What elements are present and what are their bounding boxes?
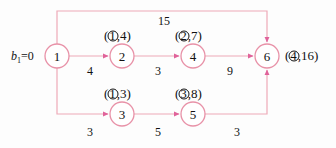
node-pair-label-2: (1,4) [104, 29, 131, 42]
node-pair-label-3: (1,3) [104, 87, 131, 100]
paren-close: ) [127, 28, 131, 43]
node-pair-label-6: (4,16) [285, 49, 318, 62]
node-label-5: 5 [181, 108, 205, 121]
circled-number-2: 2 [179, 29, 188, 42]
edge-weight-2-4: 3 [148, 65, 168, 77]
node-pair-label-4: (2,7) [175, 29, 202, 42]
pair-value: 16 [301, 48, 314, 63]
node-label-1: 1 [45, 50, 69, 63]
node-label-2: 2 [110, 50, 134, 63]
node-label-3: 3 [110, 108, 134, 121]
edge-weight-5-6: 3 [227, 126, 247, 138]
supply-label-node1: b1=0 [11, 50, 34, 65]
paren-close: ) [198, 86, 202, 101]
edge-weight-1-3: 3 [80, 126, 100, 138]
diagram-canvas: 1 2 3 4 5 6 b1=0 (1,4) (2,7) (1,3) (3,8)… [0, 0, 336, 148]
edge-weight-3-5: 5 [148, 126, 168, 138]
circled-number-4: 4 [289, 49, 298, 62]
node-pair-label-5: (3,8) [175, 87, 202, 100]
supply-value: =0 [21, 49, 34, 63]
paren-close: ) [314, 48, 318, 63]
circled-number-1: 1 [108, 29, 117, 42]
paren-close: ) [127, 86, 131, 101]
circled-number-3: 3 [179, 87, 188, 100]
node-label-6: 6 [255, 50, 279, 63]
circled-number-1: 1 [108, 87, 117, 100]
node-label-4: 4 [181, 50, 205, 63]
edge-weight-4-6: 9 [220, 65, 240, 77]
paren-close: ) [198, 28, 202, 43]
edge-weight-1-6: 15 [153, 15, 175, 27]
edge-weight-1-2: 4 [80, 65, 100, 77]
